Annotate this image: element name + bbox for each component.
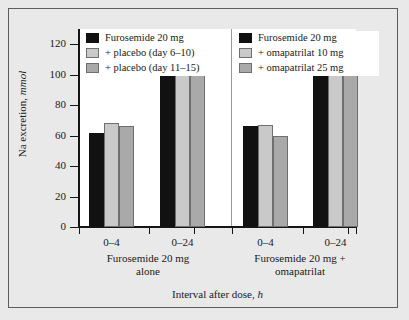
y-tick-mark bbox=[70, 227, 78, 228]
y-tick-mark bbox=[70, 105, 78, 106]
legend-swatch-mid bbox=[239, 63, 252, 73]
bar bbox=[328, 52, 343, 227]
legend-left-item: + placebo (day 6–10) bbox=[86, 46, 226, 59]
figure-container: 020406080100120 Na excretion, mmol 0–40–… bbox=[0, 0, 409, 320]
x-category-label: 0–24 bbox=[153, 236, 213, 248]
bar bbox=[104, 123, 119, 227]
x-tick-mark bbox=[149, 228, 150, 234]
bar bbox=[175, 64, 190, 227]
y-tick-label: 20 bbox=[26, 191, 66, 201]
y-tick-label: 40 bbox=[26, 160, 66, 170]
legend-label: + placebo (day 6–10) bbox=[105, 47, 195, 58]
legend-right-item: + omapatrilat 10 mg bbox=[239, 46, 379, 59]
figure-frame: 020406080100120 Na excretion, mmol 0–40–… bbox=[8, 8, 398, 308]
x-axis-title: Interval after dose, h bbox=[79, 288, 356, 300]
panel-label-line1: Furosemide 20 mg bbox=[73, 252, 223, 265]
panel-label-line2: alone bbox=[73, 265, 223, 278]
y-tick-label: 120 bbox=[26, 38, 66, 48]
x-tick-mark bbox=[356, 228, 357, 234]
legend-label: + omapatrilat 10 mg bbox=[258, 47, 344, 58]
x-tick-mark bbox=[232, 228, 233, 234]
panel-label-line1: Furosemide 20 mg + bbox=[225, 252, 375, 265]
x-tick-mark bbox=[303, 228, 304, 234]
x-tick-mark bbox=[348, 228, 349, 234]
y-tick-label: 80 bbox=[26, 99, 66, 109]
y-tick-mark bbox=[70, 197, 78, 198]
legend-label: + omapatrilat 25 mg bbox=[258, 62, 344, 73]
x-category-label: 0–4 bbox=[236, 236, 296, 248]
x-category-label: 0–4 bbox=[82, 236, 142, 248]
legend-label: Furosemide 20 mg bbox=[258, 32, 337, 43]
bar bbox=[258, 125, 273, 227]
legend-swatch-black bbox=[239, 33, 252, 43]
x-tick-mark bbox=[79, 228, 80, 234]
bar bbox=[343, 63, 358, 227]
plot-wrapper: 020406080100120 Na excretion, mmol 0–40–… bbox=[0, 0, 409, 320]
legend-left-item: + placebo (day 11–15) bbox=[86, 61, 226, 74]
panel-label-furosemide-alone: Furosemide 20 mgalone bbox=[73, 252, 223, 278]
x-category-label: 0–24 bbox=[306, 236, 366, 248]
bar bbox=[190, 55, 205, 227]
legend-right-item: + omapatrilat 25 mg bbox=[239, 61, 379, 74]
legend-swatch-light bbox=[86, 48, 99, 58]
y-tick-label: 0 bbox=[26, 221, 66, 231]
legend-furosemide-omapatrilat: Furosemide 20 mg+ omapatrilat 10 mg+ oma… bbox=[239, 31, 379, 76]
panel-label-furosemide-plus-omapatrilat: Furosemide 20 mg +omapatrilat bbox=[225, 252, 375, 278]
x-axis-title-units: h bbox=[258, 288, 264, 300]
x-axis-title-text: Interval after dose, bbox=[172, 288, 255, 300]
y-axis-title-text: Na excretion, bbox=[16, 98, 28, 157]
y-axis-title-units: mmol bbox=[16, 71, 28, 95]
legend-right-item: Furosemide 20 mg bbox=[239, 31, 379, 44]
bar bbox=[119, 126, 134, 227]
panel-label-line2: omapatrilat bbox=[225, 265, 375, 278]
y-tick-mark bbox=[70, 44, 78, 45]
y-tick-label: 100 bbox=[26, 69, 66, 79]
legend-swatch-black bbox=[86, 33, 99, 43]
bar bbox=[313, 64, 328, 227]
y-tick-label: 60 bbox=[26, 130, 66, 140]
bar bbox=[89, 133, 104, 227]
y-axis-title: Na excretion, mmol bbox=[16, 44, 28, 184]
bar bbox=[160, 73, 175, 227]
y-tick-mark bbox=[70, 75, 78, 76]
x-tick-mark bbox=[194, 228, 195, 234]
y-tick-mark bbox=[70, 136, 78, 137]
legend-label: Furosemide 20 mg bbox=[105, 32, 184, 43]
legend-swatch-mid bbox=[86, 63, 99, 73]
legend-swatch-light bbox=[239, 48, 252, 58]
y-tick-mark bbox=[70, 166, 78, 167]
bar bbox=[243, 126, 258, 227]
bar bbox=[273, 136, 288, 227]
legend-furosemide-alone: Furosemide 20 mg+ placebo (day 6–10)+ pl… bbox=[86, 31, 226, 76]
legend-label: + placebo (day 11–15) bbox=[105, 62, 199, 73]
panel-divider bbox=[231, 29, 232, 226]
y-axis-line bbox=[78, 29, 80, 227]
legend-left-item: Furosemide 20 mg bbox=[86, 31, 226, 44]
